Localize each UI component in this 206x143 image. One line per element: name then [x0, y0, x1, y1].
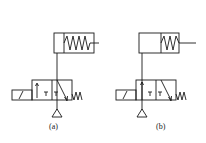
return-spring-icon	[176, 92, 186, 100]
solenoid-icon	[12, 90, 32, 100]
cylinder-b	[139, 33, 196, 53]
valve-a	[12, 80, 82, 101]
panel-a-label: (a)	[49, 122, 58, 131]
spring-icon	[161, 36, 179, 50]
solenoid-icon	[116, 90, 136, 100]
return-spring-icon	[72, 92, 82, 100]
pressure-source-icon	[137, 109, 147, 117]
valve-b	[116, 80, 186, 101]
diagram-canvas	[0, 0, 206, 143]
panel-b-label: (b)	[156, 122, 165, 131]
panel-a	[12, 33, 99, 117]
spring-icon	[64, 36, 90, 50]
pressure-source-icon	[52, 109, 62, 117]
cylinder-a	[54, 33, 99, 53]
panel-b	[116, 33, 196, 117]
